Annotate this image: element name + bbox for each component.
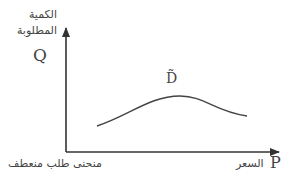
caption: منحنى طلب منعطف [8, 157, 102, 170]
kinked-demand-diagram: الكمية المطلوبة Q D̃ منحنى طلب منعطف الس… [0, 0, 303, 185]
y-axis-label-line2: المطلوبة [17, 24, 57, 37]
curve-label: D̃ [166, 70, 177, 86]
y-axis-symbol: Q [33, 45, 47, 65]
x-axis-symbol: P [270, 153, 281, 172]
x-axis-label: السعر [236, 157, 264, 170]
demand-curve [97, 96, 247, 126]
y-axis-label-line1: الكمية [29, 8, 57, 21]
